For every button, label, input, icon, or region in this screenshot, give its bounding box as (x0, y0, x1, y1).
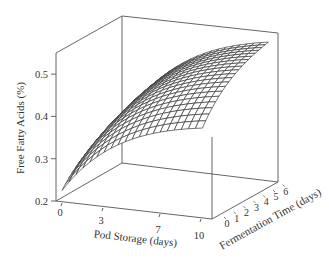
y-axis-title: Fermentation Time (days) (217, 185, 324, 252)
tick-label: 0.4 (35, 111, 49, 122)
tick-label: 4 (264, 196, 269, 207)
tick-label: 6 (283, 186, 288, 197)
z-axis: 0.20.30.40.5 (35, 69, 56, 207)
tick-label: 5 (274, 191, 279, 202)
z-axis-title: Free Fatty Acids (%) (14, 82, 27, 174)
tick-label: 0.2 (35, 196, 48, 207)
tick-label: 2 (244, 207, 249, 218)
tick-label: 0 (57, 207, 62, 218)
tick-label: 3 (254, 202, 259, 213)
x-axis-title: Pod Storage (days) (93, 227, 178, 249)
tick-label: 10 (194, 230, 205, 241)
tick-label: 1 (234, 213, 239, 224)
surface-plot: 0.20.30.40.5 03710 0123456 Free Fatty Ac… (0, 0, 329, 262)
tick-label: 3 (98, 215, 103, 226)
tick-label: 7 (155, 224, 160, 235)
tick-label: 0.5 (35, 69, 48, 80)
tick-label: 0.3 (35, 154, 48, 165)
tick-label: 0 (225, 218, 230, 229)
